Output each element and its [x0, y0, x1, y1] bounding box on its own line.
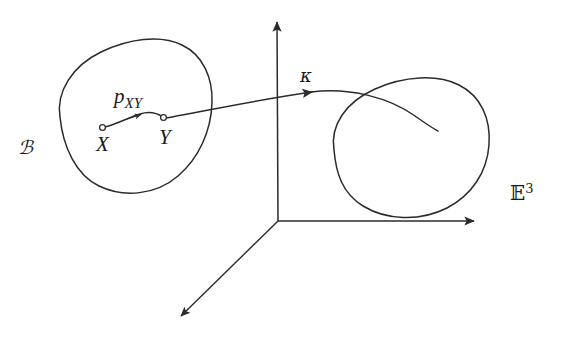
- axis-diagonal: [181, 221, 278, 316]
- label-euclidean-base: 𝔼: [510, 181, 525, 205]
- label-path-base: p: [114, 84, 125, 108]
- label-configuration-map: κ: [300, 67, 312, 85]
- coordinate-axes: [181, 22, 474, 316]
- label-point-x: X: [96, 134, 109, 155]
- point-x-marker: [100, 125, 106, 131]
- path-pxy-curve: [105, 113, 163, 127]
- kappa-mapping-curve-arrowed: [166, 92, 312, 118]
- figure-canvas: pXY X Y ℬ κ 𝔼3: [0, 0, 568, 340]
- point-y-marker: [161, 115, 167, 121]
- label-point-y: Y: [159, 127, 171, 148]
- diagram-vector-layer: [0, 0, 568, 340]
- label-euclidean-space: 𝔼3: [510, 182, 534, 203]
- label-body-region: ℬ: [18, 138, 33, 157]
- label-path-pxy: pXY: [114, 86, 142, 111]
- deformed-body-outline: [333, 78, 489, 218]
- axis-vertical: [277, 22, 278, 221]
- path-pxy-arrow-head: [127, 115, 141, 120]
- kappa-mapping-curve-tail: [311, 91, 438, 131]
- label-path-subscript: XY: [125, 95, 143, 111]
- label-euclidean-superscript: 3: [525, 181, 533, 196]
